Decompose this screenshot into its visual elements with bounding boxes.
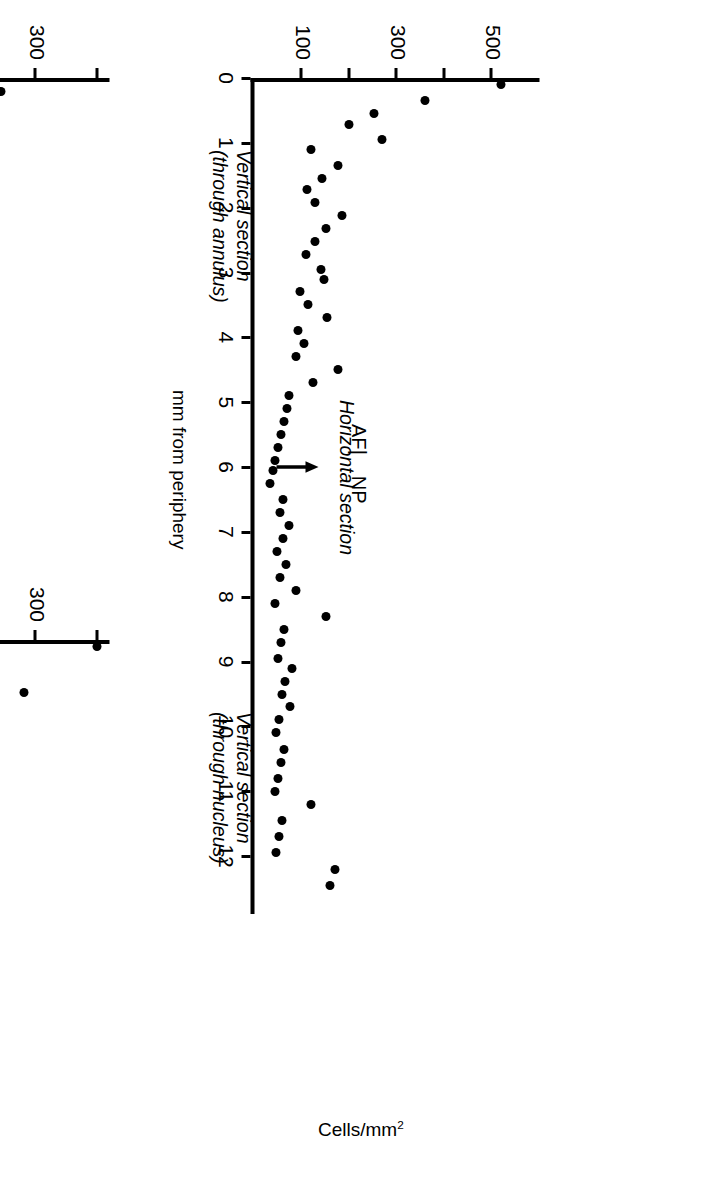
data-point xyxy=(271,728,280,737)
data-point xyxy=(344,120,353,129)
data-point xyxy=(321,612,330,621)
y-tick xyxy=(395,68,398,78)
boundary-arrow-icon xyxy=(275,459,321,475)
y-axis-title-superscript: 2 xyxy=(397,1118,404,1131)
data-point xyxy=(333,365,342,374)
data-point xyxy=(275,508,284,517)
data-point xyxy=(285,702,294,711)
y-tick xyxy=(442,68,445,78)
data-point xyxy=(291,586,300,595)
data-point xyxy=(273,443,282,452)
y-axis xyxy=(0,78,109,82)
data-point xyxy=(337,211,346,220)
figure-canvas: 012345100300CPAF012345100300CPNP01234567… xyxy=(0,0,709,1202)
x-axis-title: mm from periphery xyxy=(167,390,189,549)
data-point xyxy=(270,787,279,796)
data-point xyxy=(420,96,429,105)
x-tick xyxy=(241,466,250,469)
x-tick-label: 6 xyxy=(213,447,237,487)
y-axis-title-text: Cells/mm xyxy=(318,1119,397,1140)
y-tick-label: 300 xyxy=(386,8,410,60)
data-point xyxy=(303,300,312,309)
data-point xyxy=(293,326,302,335)
x-tick xyxy=(241,336,250,339)
data-point xyxy=(279,625,288,634)
x-tick xyxy=(241,77,250,80)
data-point xyxy=(308,378,317,387)
data-point xyxy=(273,654,282,663)
y-tick-label: 300 xyxy=(24,8,48,60)
data-point xyxy=(265,479,274,488)
data-point xyxy=(0,87,5,96)
data-point xyxy=(19,688,28,697)
data-point xyxy=(281,560,290,569)
data-point xyxy=(317,174,326,183)
data-point xyxy=(319,275,328,284)
data-point xyxy=(369,109,378,118)
x-tick xyxy=(241,661,250,664)
y-tick-label: 100 xyxy=(291,8,315,60)
data-point xyxy=(316,265,325,274)
x-tick-label: 0 xyxy=(213,58,237,98)
data-point xyxy=(277,816,286,825)
panel-title-vertical-nucleus: Vertical section (through nucleus) xyxy=(206,712,254,864)
panel-title-horizontal-section: Horizontal section xyxy=(333,400,357,555)
data-point xyxy=(306,145,315,154)
y-axis-title: Cells/mm2 xyxy=(318,1118,404,1141)
x-tick-label: 5 xyxy=(213,382,237,422)
data-point xyxy=(282,404,291,413)
data-point xyxy=(301,250,310,259)
data-point xyxy=(275,573,284,582)
data-point xyxy=(321,224,330,233)
data-point xyxy=(276,638,285,647)
y-tick xyxy=(33,68,36,78)
data-point xyxy=(92,642,101,651)
data-point xyxy=(279,417,288,426)
chart-panel-vertical-annulus: 012345100300CPAF xyxy=(0,78,109,368)
data-point xyxy=(295,287,304,296)
data-point xyxy=(270,599,279,608)
x-tick-label: 8 xyxy=(213,577,237,617)
y-tick xyxy=(490,68,493,78)
data-point xyxy=(271,848,280,857)
data-point xyxy=(278,495,287,504)
x-tick xyxy=(241,401,250,404)
data-point xyxy=(288,664,297,673)
y-tick xyxy=(33,630,36,640)
x-tick-label: 9 xyxy=(213,642,237,682)
y-tick-label: 500 xyxy=(481,8,505,60)
data-point xyxy=(277,690,286,699)
y-tick xyxy=(300,68,303,78)
data-point xyxy=(377,135,386,144)
chart-panel-vertical-nucleus: 012345100300CPNP xyxy=(0,640,109,930)
data-point xyxy=(322,313,331,322)
data-point xyxy=(280,677,289,686)
x-tick-label: 4 xyxy=(213,317,237,357)
data-point xyxy=(278,534,287,543)
x-tick xyxy=(241,142,250,145)
data-point xyxy=(284,521,293,530)
data-point xyxy=(276,430,285,439)
y-tick xyxy=(347,68,350,78)
x-tick xyxy=(241,531,250,534)
data-point xyxy=(310,198,319,207)
data-point xyxy=(272,547,281,556)
data-point xyxy=(310,237,319,246)
data-point xyxy=(274,832,283,841)
data-point xyxy=(299,339,308,348)
data-point xyxy=(333,161,342,170)
data-point xyxy=(279,745,288,754)
y-tick xyxy=(95,630,98,640)
panel-title-vertical-annulus: Vertical section (through annulus) xyxy=(206,150,254,303)
data-point xyxy=(330,865,339,874)
data-point xyxy=(325,881,334,890)
y-axis xyxy=(250,78,539,82)
data-point xyxy=(497,80,506,89)
chart-panel-horizontal-section: 0123456789101112100300500AF|NP xyxy=(254,78,539,908)
y-tick-label: 300 xyxy=(24,570,48,622)
x-tick xyxy=(241,596,250,599)
data-point xyxy=(273,774,282,783)
data-point xyxy=(284,391,293,400)
data-point xyxy=(276,758,285,767)
data-point xyxy=(307,800,316,809)
